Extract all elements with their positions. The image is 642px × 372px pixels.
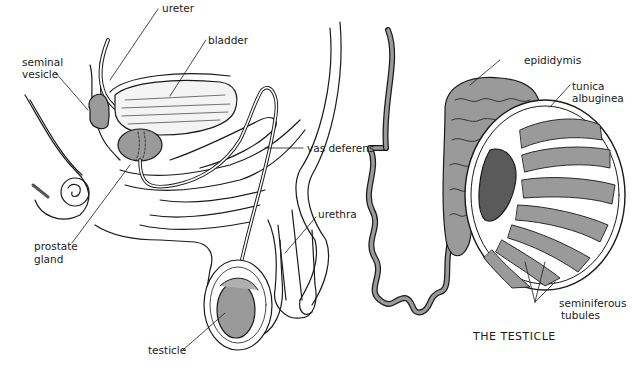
label-testicle: testicle [148, 344, 186, 356]
label-prostate-gland-line1: prostate [34, 240, 78, 252]
label-seminal-vesicle-line1: seminal [22, 56, 63, 68]
label-seminal-vesicle-line2: vesicle [22, 68, 58, 80]
label-ureter: ureter [162, 2, 194, 14]
label-prostate-gland-line2: gland [34, 253, 63, 265]
testis-cross-section [465, 100, 625, 290]
label-epididymis: epididymis [524, 54, 581, 66]
label-seminiferous-tubules-line2: tubules [561, 309, 600, 321]
leader-lines-left [55, 9, 316, 350]
label-bladder: bladder [208, 34, 248, 46]
label-vas-deferens: vas deferens [307, 142, 374, 154]
figure-title-the-testicle: THE TESTICLE [473, 330, 556, 343]
coiled-vas-deferens [369, 30, 451, 312]
scrotum-shape [204, 260, 272, 350]
label-tunica-albuginea-line2: albuginea [572, 92, 624, 104]
label-tunica-albuginea-line1: tunica [572, 80, 605, 92]
testicle-shape [217, 282, 255, 338]
label-seminiferous-tubules-line1: seminiferous [559, 297, 626, 309]
bladder-shape [110, 74, 237, 135]
label-urethra: urethra [318, 208, 357, 220]
seminal-vesicle-shape [89, 94, 109, 128]
prostate-shape [118, 129, 162, 161]
